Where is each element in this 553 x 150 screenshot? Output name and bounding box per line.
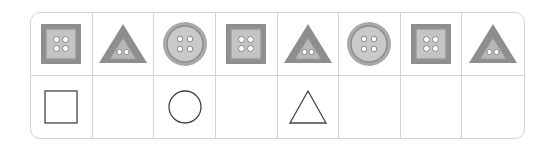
answer-cell-2[interactable] xyxy=(93,76,155,139)
square-outline-icon xyxy=(43,89,79,125)
square-button-icon xyxy=(410,23,452,65)
square-button-icon xyxy=(40,23,82,65)
answer-cell-4[interactable] xyxy=(216,76,278,139)
pattern-cell-8 xyxy=(462,13,524,76)
pattern-cell-3 xyxy=(154,13,216,76)
square-button-icon xyxy=(225,23,267,65)
triangle-button-icon xyxy=(468,23,518,65)
triangle-button-icon xyxy=(98,23,148,65)
answer-cell-7[interactable] xyxy=(401,76,463,139)
pattern-grid xyxy=(30,12,525,139)
pattern-cell-5 xyxy=(278,13,340,76)
answer-cell-5[interactable] xyxy=(278,76,340,139)
circle-button-icon xyxy=(162,21,208,67)
answer-cell-6[interactable] xyxy=(339,76,401,139)
pattern-cell-6 xyxy=(339,13,401,76)
triangle-button-icon xyxy=(283,23,333,65)
pattern-cell-1 xyxy=(31,13,93,76)
pattern-cell-2 xyxy=(93,13,155,76)
triangle-outline-icon xyxy=(288,89,328,125)
answer-cell-1[interactable] xyxy=(31,76,93,139)
answer-cell-3[interactable] xyxy=(154,76,216,139)
answer-cell-8[interactable] xyxy=(462,76,524,139)
pattern-cell-4 xyxy=(216,13,278,76)
circle-button-icon xyxy=(346,21,392,67)
circle-outline-icon xyxy=(167,89,203,125)
pattern-cell-7 xyxy=(401,13,463,76)
